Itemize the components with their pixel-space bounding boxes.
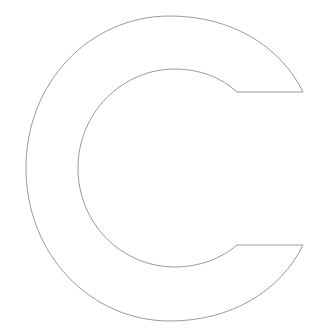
c-shape-icon [0, 0, 321, 329]
canvas: C [0, 0, 321, 329]
c-outline [26, 16, 303, 321]
